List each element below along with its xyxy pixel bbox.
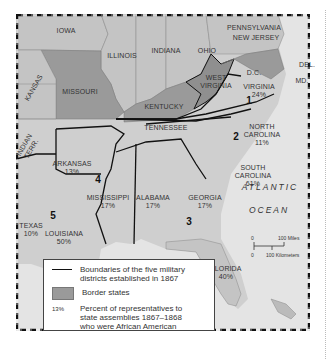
label-atlantic: ATLANTIC xyxy=(242,182,298,192)
label-arkansas: ARKANSAS 13% xyxy=(53,160,92,176)
label-missouri: MISSOURI xyxy=(62,88,97,96)
label-ocean: OCEAN xyxy=(249,205,289,215)
label-tennessee: TENNESSEE xyxy=(144,124,187,132)
page-edge-divider xyxy=(325,10,326,359)
district-number-2: 2 xyxy=(233,131,239,142)
district-number-1: 1 xyxy=(246,95,252,106)
district-number-4: 4 xyxy=(95,174,101,185)
district-number-3: 3 xyxy=(186,216,192,227)
percent-symbol: 13% xyxy=(52,305,72,314)
legend-item-boundaries: Boundaries of the five military district… xyxy=(52,265,185,283)
label-georgia: GEORGIA 17% xyxy=(188,194,221,210)
label-alabama: ALABAMA 17% xyxy=(136,194,170,210)
label-indiana: INDIANA xyxy=(151,47,180,55)
label-north-carolina: NORTH CAROLINA 11% xyxy=(244,123,281,147)
scale-zero-bottom: 0 xyxy=(251,252,254,258)
label-illinois: ILLINOIS xyxy=(107,52,137,60)
label-pennsylvania: PENNSYLVANIA xyxy=(227,24,281,32)
scale-miles: 100 Miles xyxy=(278,235,299,241)
scale-kilometers: 100 Kilometers xyxy=(266,252,299,258)
label-iowa: IOWA xyxy=(57,27,76,35)
label-texas: TEXAS 10% xyxy=(19,222,42,238)
label-kentucky: KENTUCKY xyxy=(145,103,184,111)
boundary-line-symbol xyxy=(52,269,72,270)
map-legend: Boundaries of the five military district… xyxy=(43,259,215,331)
label-florida: FLORIDA 40% xyxy=(210,265,241,281)
scale-zero-top: 0 xyxy=(251,235,254,241)
label-md: MD. xyxy=(295,77,308,85)
district-number-5: 5 xyxy=(50,210,56,221)
label-mississippi: MISSISSIPPI 17% xyxy=(87,194,130,210)
label-new-jersey: NEW JERSEY xyxy=(233,34,280,42)
label-del: DEL. xyxy=(299,61,315,69)
label-ohio: OHIO xyxy=(198,47,216,55)
legend-item-border-states: Border states xyxy=(52,287,130,300)
label-louisiana: LOUISIANA 50% xyxy=(45,230,83,246)
label-dc: D.C. xyxy=(247,69,261,77)
border-state-swatch xyxy=(52,287,74,300)
label-west-virginia: WEST VIRGINIA xyxy=(200,74,232,90)
legend-item-percent: 13% Percent of representatives to state … xyxy=(52,304,182,331)
